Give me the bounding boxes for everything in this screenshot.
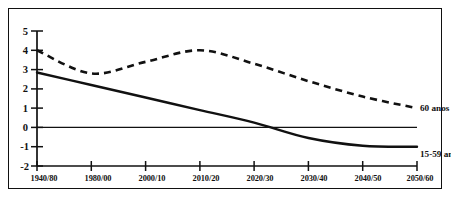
y-tick-label-3: 3 <box>23 64 28 75</box>
series-line-60-anos-mais <box>37 50 417 108</box>
x-tick-label-6: 2040/50 <box>355 174 382 183</box>
x-tick-label-3: 2010/20 <box>193 174 220 183</box>
series-label-60-anos-mais: 60 anos + <box>420 103 451 113</box>
y-tick-label-0: 0 <box>23 122 28 133</box>
x-tick-label-2: 2000/10 <box>139 174 166 183</box>
series-line-15-59-anos <box>37 72 417 146</box>
y-tick-label-5: 5 <box>23 26 28 37</box>
chart-container: 5 4 3 2 1 0 -1 -2 1940/80 1980/00 2000/1… <box>0 0 451 208</box>
series-label-15-59-anos: 15-59 anos <box>420 149 451 159</box>
y-tick-label-1: 1 <box>23 103 28 114</box>
x-tick-label-0: 1940/80 <box>31 174 58 183</box>
x-tick-label-7: 2050/60 <box>407 174 434 183</box>
x-tick-label-5: 2030/40 <box>301 174 328 183</box>
line-chart-plot: 5 4 3 2 1 0 -1 -2 1940/80 1980/00 2000/1… <box>0 0 451 208</box>
y-tick-label-2: 2 <box>23 83 28 94</box>
y-tick-label-neg1: -1 <box>20 141 29 152</box>
y-tick-label-4: 4 <box>23 45 29 56</box>
x-tick-label-4: 2020/30 <box>247 174 274 183</box>
x-tick-label-1: 1980/00 <box>85 174 112 183</box>
y-tick-label-neg2: -2 <box>20 161 29 172</box>
